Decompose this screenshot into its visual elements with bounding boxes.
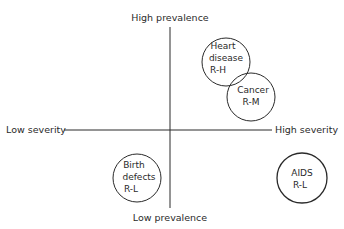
- aids-line-1: AIDS: [291, 168, 313, 178]
- aids-line-2: R-L: [293, 180, 307, 190]
- circle-cancer: Cancer R-M: [227, 73, 275, 121]
- cancer-line-2: R-M: [243, 97, 260, 107]
- birth-defects-line-2: defects: [122, 172, 155, 182]
- axis-label-left: Low severity: [6, 124, 66, 135]
- heart-disease-line-1: Heart: [210, 41, 236, 51]
- heart-disease-line-3: R-H: [210, 65, 226, 75]
- prevalence-severity-diagram: High prevalence Low prevalence Low sever…: [0, 0, 344, 229]
- heart-disease-line-2: disease: [209, 53, 244, 63]
- circle-aids: AIDS R-L: [277, 153, 327, 203]
- birth-defects-line-3: R-L: [124, 184, 138, 194]
- circle-birth-defects: Birth defects R-L: [113, 154, 161, 202]
- circle-heart-disease: Heart disease R-H: [202, 38, 250, 86]
- cancer-line-1: Cancer: [237, 85, 269, 95]
- axis-label-right: High severity: [275, 124, 338, 135]
- birth-defects-line-1: Birth: [123, 160, 145, 170]
- axis-label-top: High prevalence: [131, 12, 209, 23]
- axis-label-bottom: Low prevalence: [133, 212, 207, 223]
